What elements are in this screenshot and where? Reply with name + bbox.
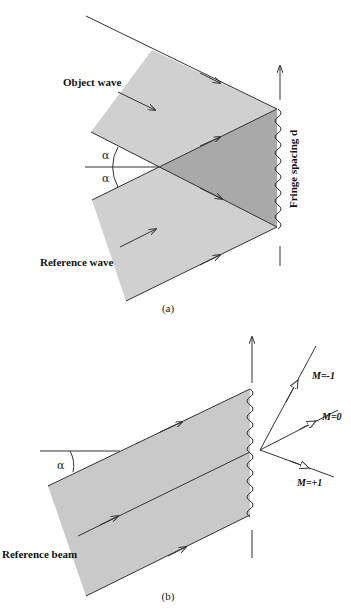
angle-b-label: α — [57, 459, 65, 472]
order-m+1-label: M=+1 — [296, 477, 322, 488]
figure-b: α M=-1 M=0 M=+1 Reference beam (b) — [2, 337, 342, 603]
fringe-spacing-label: Fringe spacing d — [287, 130, 299, 208]
angle-top-label: α — [102, 149, 110, 162]
angle-bottom-label: α — [102, 172, 110, 185]
caption-b: (b) — [162, 590, 175, 603]
order-m0-label: M=0 — [321, 411, 342, 422]
hologram-diagram: α α Object wave Reference wave Fringe sp… — [0, 0, 351, 610]
caption-a: (a) — [162, 302, 175, 315]
object-wave-label: Object wave — [63, 76, 121, 88]
figure-a: α α Object wave Reference wave Fringe sp… — [40, 16, 299, 315]
order-m-1-label: M=-1 — [311, 370, 335, 381]
angle-arc-b — [70, 451, 74, 472]
reference-beam-label: Reference beam — [2, 548, 77, 560]
reference-wave-label: Reference wave — [40, 256, 114, 268]
